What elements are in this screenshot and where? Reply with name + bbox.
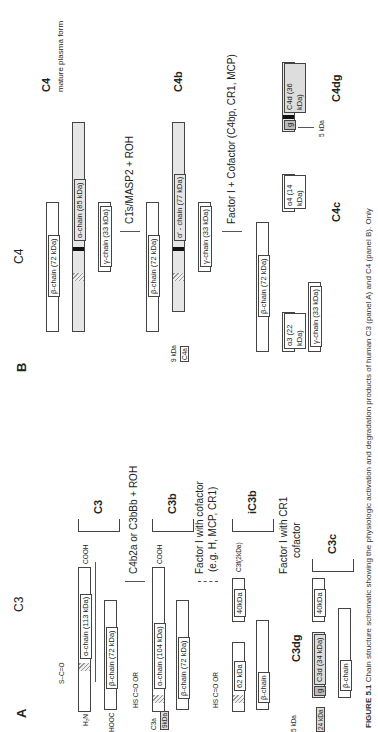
thioester-region [73,273,84,281]
c4b-label: C4b [172,71,184,92]
c4-gamma-chain-label: γ-chain (33 kDa) [100,206,112,267]
step1-enzyme: C4b2a or C3bBb + ROH [128,466,139,574]
c4-arrow-1 [120,231,140,232]
c4-alpha-chain: α-chain (85 kDa) [72,122,85,332]
c3b-label: C3b [166,493,178,514]
c4dg-arrow [298,127,314,128]
ic3b-62kda-label: 62 kDa [234,661,246,691]
c4b-gamma-chain-label: γ-chain (33 kDa) [200,206,212,267]
c4-beta-chain-label: β-chain (72 kDa) [48,235,60,297]
cleavage-site [73,247,84,251]
c4dg-5kda: 5 kDa [318,120,325,137]
c3c-beta-chain-label: β-chain [340,660,352,691]
c4-label: C4 [40,78,52,92]
c3c-bracket [312,559,354,572]
c4b-alpha-chain: α′ - chain (77 kDa) [172,122,185,312]
thioester-region [79,663,90,671]
c3c-40kda-label: 40kDa [314,589,326,617]
c4dg-label: C4dg [330,75,342,103]
panel-b-title: C4 [12,249,26,264]
caption-label: FIGURE 5.1 [364,684,373,728]
c4-subtitle: mature plasma form [56,21,65,92]
arrow-1-shaft [125,581,145,582]
c3-beta-chain-label: β-chain (72 kDa) [106,627,118,689]
c3b-alpha-chain-label: α-chain (104 kDa) [154,623,166,689]
c3b-beta-chain: β-chain (72 kDa) [176,600,189,710]
c4-gamma-chain: γ-chain (33 kDa) [98,202,111,272]
c4c-gamma-chain-label: γ-chain (33 kDa) [310,286,322,347]
c4b-beta-chain-label: β-chain (72 kDa) [148,235,160,297]
panel-a-letter: A [14,709,29,718]
c4dg-segment: g C4d (36 kDa) [282,62,295,132]
c4b-beta-chain: β-chain (72 kDa) [146,202,159,332]
c4-step2-enzyme: Factor I + Cofactor (C4bp, CR1, MCP) [226,54,237,224]
disulfide-link [95,562,96,682]
c3c-40kda-segment: 40kDa [312,578,325,622]
c4c-alpha4-label: α4 (14 kDa) [284,175,306,209]
c4d-label: C4d (36 kDa) [284,63,306,113]
c3c-label: C3c [326,534,338,554]
ic3b-beta-chain: β-chain [256,620,269,710]
thioester-region [173,273,184,281]
panel-a-title: C3 [12,597,26,612]
c4c-label: C4c [330,202,342,222]
c3-thioester: S–C=O [58,663,65,685]
c3d-label: C3d (34 kDa) [314,634,326,685]
c4dg-g-label: g [284,120,296,130]
figure-canvas: A C3 H₂N α-chain (113 kDa) S–C=O COOH HO… [0,0,378,732]
c3b-alpha-chain: α-chain (104 kDa) [152,567,165,712]
figure-caption: FIGURE 5.1 Chain structure schematic sho… [364,208,373,728]
c4c-beta-chain: β-chain (72 kDa) [256,222,269,352]
c3-alpha-chain: α-chain (113 kDa) [78,567,91,712]
c3b-cterm: COOH [156,545,163,565]
c4c-beta-chain-label: β-chain (72 kDa) [258,255,270,317]
step3-enzyme-line1: Factor I with CR1 [278,497,289,574]
c3b-thioester: HS C=O OR [132,672,139,708]
ic3b-40kda-label: 40kDa [234,589,246,617]
cleavage-site [173,247,184,251]
c3dg-5kda: 5 kDa [290,715,297,732]
panel-b-letter: B [14,363,29,372]
c3dg-segment: g C3d (34 kDa) [312,632,325,698]
c4c-alpha4: α4 (14 kDa) [282,174,295,212]
c3a-name: C3a [150,718,157,730]
c3-beta-chain: β-chain (72 kDa) [104,600,117,710]
ic3b-label: iC3b [246,490,258,514]
c3c-beta-chain: β-chain [338,608,351,698]
c3dg-label: C3dg [290,635,302,663]
c4b-gamma-chain: γ-chain (33 kDa) [198,202,211,272]
c3-alpha-chain-label: α-chain (113 kDa) [80,594,92,659]
c4-arrow-2 [222,231,242,232]
step3-enzyme-line2: cofactor [291,522,302,558]
c3-beta-cterm: HOOC [108,713,115,732]
caption-text: Chain structure schematic showing the ph… [364,208,373,682]
thioester-region [153,695,164,703]
c4c-gamma-chain: γ-chain (33 kDa) [308,282,321,352]
ic3b-bracket [232,519,274,532]
c3-label: C3 [92,500,104,514]
step2-enzyme-line1: Factor I with cofactor [194,481,205,574]
c4-beta-chain: β-chain (72 kDa) [46,202,59,332]
c3f-released: C3f(2kDa) [235,542,242,572]
arrow-2-shaft [198,580,218,582]
cleavage-site [283,115,294,119]
c3b-beta-chain-label: β-chain (72 kDa) [178,637,190,699]
c4-step1-enzyme: C1̄s/MASP2 + ROH [124,136,135,224]
c3-n-terminus: H₂N [82,714,89,726]
c3-bracket [78,519,120,532]
c3dg-g-label: g [314,686,326,696]
ic3b-40kda-segment: 40kDa [232,578,245,622]
c3-24kda-fragment: 24 kDa [316,707,325,732]
ic3b-thioester: HS C=O OR [212,672,219,708]
c3-alpha-cterm: COOH [82,545,89,565]
ic3b-beta-chain-label: β-chain [258,672,270,703]
c4a-size: 9 kDa [170,345,177,362]
c4c-alpha3-label: α3 (22 kDa) [284,313,306,349]
c4b-alpha-chain-label: α′ - chain (77 kDa) [174,174,186,241]
c3a-fragment: 9kDa [160,711,169,730]
thioester-region [233,695,244,703]
c4-alpha-chain-label: α-chain (85 kDa) [74,179,86,241]
c4a-fragment: C4a [180,346,189,362]
c3b-bracket [152,519,194,532]
c4c-alpha3: α3 (22 kDa) [282,312,295,352]
